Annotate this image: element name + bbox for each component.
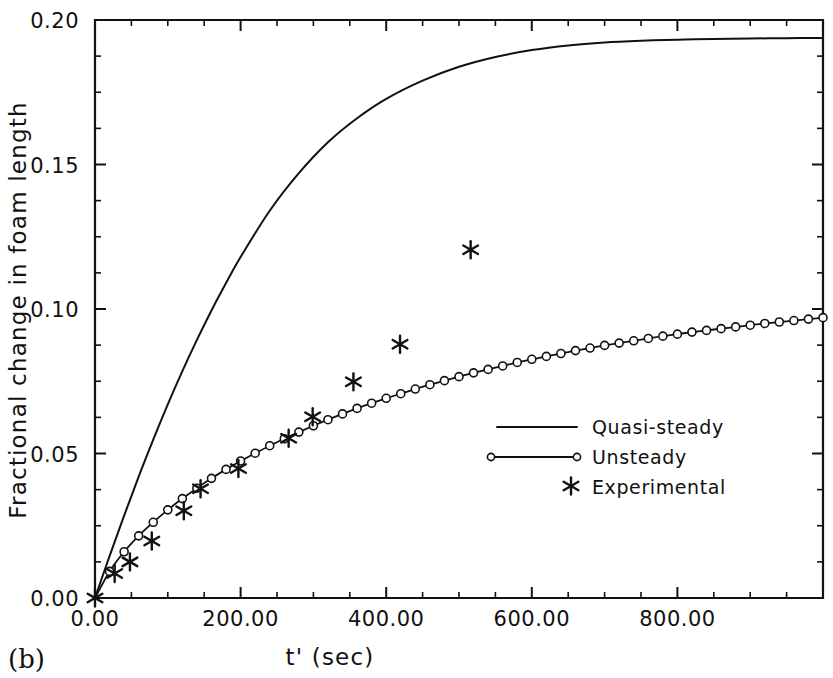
y-tick-label: 0.10 xyxy=(30,298,79,322)
data-point-unsteady xyxy=(484,365,492,373)
legend-asterisk-icon xyxy=(564,478,579,495)
data-point-unsteady xyxy=(499,362,507,370)
legend-entry-quasi-steady: Quasi-steady xyxy=(497,416,724,438)
data-point-unsteady xyxy=(673,330,681,338)
data-point-unsteady xyxy=(266,442,274,450)
x-tick-label: 800.00 xyxy=(639,607,715,631)
data-point-unsteady xyxy=(470,369,478,377)
legend-swatch-asterisk xyxy=(564,478,579,495)
data-point-unsteady xyxy=(790,317,798,325)
data-point-experimental xyxy=(176,502,191,519)
legend-label-experimental: Experimental xyxy=(592,476,726,498)
data-point-unsteady xyxy=(586,344,594,352)
data-point-unsteady xyxy=(339,410,347,418)
data-point-unsteady xyxy=(630,337,638,345)
data-point-unsteady xyxy=(688,328,696,336)
data-point-unsteady xyxy=(819,314,827,322)
y-tick-label: 0.00 xyxy=(30,587,79,611)
data-point-unsteady xyxy=(207,474,215,482)
x-tick-label: 200.00 xyxy=(202,607,278,631)
data-point-experimental xyxy=(463,241,478,258)
data-point-unsteady xyxy=(324,416,332,424)
data-point-unsteady xyxy=(659,332,667,340)
legend-swatch-circle-left xyxy=(487,453,494,460)
x-axis-title: t' (sec) xyxy=(286,644,375,670)
data-point-unsteady xyxy=(382,394,390,402)
figure-panel-b: 0.00200.00400.00600.00800.00 0.000.050.1… xyxy=(0,0,833,678)
plot-frame xyxy=(95,20,823,598)
data-point-unsteady xyxy=(426,381,434,389)
data-point-experimental xyxy=(144,533,159,550)
data-point-unsteady xyxy=(440,377,448,385)
legend-swatch-circle-right xyxy=(573,453,580,460)
data-point-unsteady xyxy=(703,326,711,334)
legend-entry-experimental: Experimental xyxy=(564,476,726,498)
legend-entry-unsteady: Unsteady xyxy=(487,446,686,468)
data-point-unsteady xyxy=(149,518,157,526)
x-tick-label: 600.00 xyxy=(494,607,570,631)
legend: Quasi-steady Unsteady Experimental xyxy=(487,416,726,498)
data-point-experimental xyxy=(305,408,320,425)
data-point-unsteady xyxy=(120,548,128,556)
panel-label: (b) xyxy=(8,644,45,674)
series-quasi-steady xyxy=(95,38,823,598)
y-tick-label: 0.20 xyxy=(30,9,79,33)
data-point-unsteady xyxy=(455,373,463,381)
legend-label-quasi-steady: Quasi-steady xyxy=(592,416,724,438)
data-point-unsteady xyxy=(411,385,419,393)
data-point-unsteady xyxy=(732,323,740,331)
y-tick-label: 0.15 xyxy=(30,154,79,178)
x-tick-labels: 0.00200.00400.00600.00800.00 xyxy=(71,607,716,631)
data-point-unsteady xyxy=(397,390,405,398)
data-point-unsteady xyxy=(615,339,623,347)
data-point-unsteady xyxy=(368,399,376,407)
x-tick-label: 400.00 xyxy=(348,607,424,631)
data-point-unsteady xyxy=(542,352,550,360)
y-tick-label: 0.05 xyxy=(30,443,79,467)
data-point-unsteady xyxy=(775,318,783,326)
data-point-experimental xyxy=(346,373,361,390)
data-point-unsteady xyxy=(557,350,565,358)
series-experimental xyxy=(88,241,478,606)
data-point-unsteady xyxy=(513,358,521,366)
data-point-unsteady xyxy=(571,347,579,355)
data-point-experimental xyxy=(393,336,408,353)
data-point-unsteady xyxy=(178,495,186,503)
data-point-unsteady xyxy=(135,532,143,540)
series-unsteady xyxy=(95,314,827,598)
data-point-unsteady xyxy=(251,449,259,457)
data-point-unsteady xyxy=(164,506,172,514)
data-point-unsteady xyxy=(746,321,754,329)
data-point-unsteady xyxy=(717,325,725,333)
legend-label-unsteady: Unsteady xyxy=(592,446,687,468)
data-point-unsteady xyxy=(528,355,536,363)
y-tick-labels: 0.000.050.100.150.20 xyxy=(30,9,79,611)
y-axis-title: Fractional change in foam length xyxy=(5,101,31,519)
data-point-unsteady xyxy=(601,341,609,349)
data-point-unsteady xyxy=(644,334,652,342)
chart-svg: 0.00200.00400.00600.00800.00 0.000.050.1… xyxy=(0,0,833,678)
data-point-unsteady xyxy=(353,404,361,412)
data-point-unsteady xyxy=(222,465,230,473)
axis-ticks xyxy=(95,20,823,598)
data-point-unsteady xyxy=(804,315,812,323)
data-point-unsteady xyxy=(761,319,769,327)
